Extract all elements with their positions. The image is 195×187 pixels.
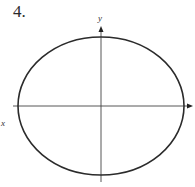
ellipse-diagram	[0, 0, 195, 187]
x-axis-arrow-icon	[187, 104, 193, 109]
y-axis-arrow-icon	[99, 26, 104, 32]
